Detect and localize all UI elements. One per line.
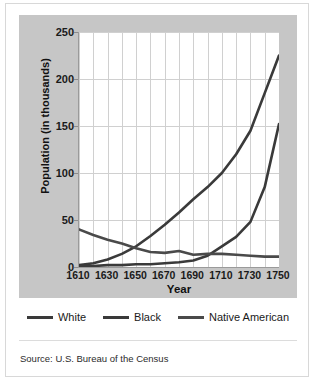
- legend-entry-native-american[interactable]: Native American: [178, 311, 289, 323]
- x-axis-tick-label: 1610: [66, 270, 89, 281]
- legend-entry-black[interactable]: Black: [103, 311, 161, 323]
- y-axis-tick-label: 100: [40, 168, 74, 179]
- chart-legend: WhiteBlackNative American: [19, 304, 297, 330]
- y-axis-tick-group: 050100150200250: [36, 32, 74, 268]
- x-axis-title: Year: [78, 283, 280, 295]
- source-divider: [19, 340, 297, 341]
- plot-area: [78, 32, 279, 268]
- x-axis-tick-label: 1750: [266, 270, 289, 281]
- legend-label: Black: [134, 311, 161, 323]
- x-axis-tick-label: 1630: [95, 270, 118, 281]
- chart-panel: Population (in thousands) 05010015020025…: [19, 15, 297, 298]
- legend-line-swatch-icon: [27, 316, 53, 319]
- legend-label: White: [58, 311, 86, 323]
- y-axis-tick-label: 250: [40, 27, 74, 38]
- legend-line-swatch-icon: [178, 316, 204, 319]
- y-axis-tick-label: 150: [40, 121, 74, 132]
- x-axis-tick-group: 16101630165016701690171017301750: [78, 270, 280, 284]
- plot-svg: [79, 32, 279, 267]
- x-axis-tick-label: 1650: [123, 270, 146, 281]
- x-axis-tick-label: 1710: [209, 270, 232, 281]
- x-axis-tick-label: 1730: [238, 270, 261, 281]
- legend-label: Native American: [209, 311, 289, 323]
- legend-line-swatch-icon: [103, 316, 129, 319]
- legend-entry-white[interactable]: White: [27, 311, 86, 323]
- x-axis-tick-label: 1690: [181, 270, 204, 281]
- y-axis-tick-label: 200: [40, 74, 74, 85]
- chart-figure-card: Population (in thousands) 05010015020025…: [5, 3, 309, 377]
- y-axis-tick-label: 50: [40, 215, 74, 226]
- x-axis-tick-label: 1670: [152, 270, 175, 281]
- source-note: Source: U.S. Bureau of the Census: [20, 353, 168, 364]
